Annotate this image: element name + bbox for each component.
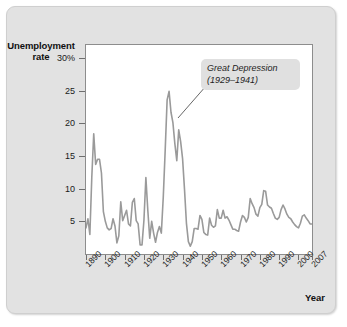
y-tick-label: 25 [45,86,75,96]
y-tick-mark [79,189,85,190]
figure-container: Unemployment rate 30%252015105 189019001… [0,0,347,327]
y-axis-title-line1: Unemployment [2,40,80,51]
y-tick-mark [79,123,85,124]
y-tick-label: 30% [45,53,75,63]
annotation-line-1: Great Depression [207,62,295,74]
great-depression-annotation: Great Depression (1929–1941) [201,59,300,90]
y-tick-mark [79,91,85,92]
y-tick-label: 5 [45,216,75,226]
x-axis-title: Year [305,292,325,303]
y-tick-label: 20 [45,118,75,128]
y-tick-mark [79,58,85,59]
y-tick-mark [79,221,85,222]
y-tick-label: 10 [45,184,75,194]
y-tick-mark [79,156,85,157]
annotation-line-2: (1929–1941) [207,74,295,86]
y-tick-label: 15 [45,151,75,161]
